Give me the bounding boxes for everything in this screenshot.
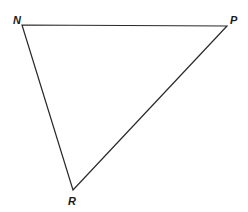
vertex-label-n: N — [13, 14, 22, 26]
vertex-label-r: R — [68, 195, 76, 207]
triangle-npr — [22, 25, 227, 190]
triangle-diagram: N P R — [0, 0, 248, 212]
vertex-label-p: P — [230, 14, 238, 26]
